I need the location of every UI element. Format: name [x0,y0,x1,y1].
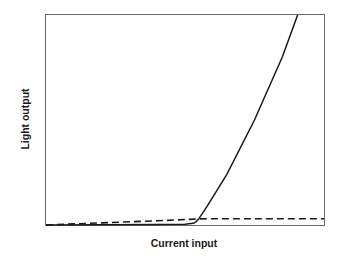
chart-canvas [0,0,340,267]
y-axis-label: Light output [19,88,31,149]
plot-frame [46,15,325,226]
laser-output-line [46,15,298,225]
x-axis-label: Current input [151,237,218,249]
